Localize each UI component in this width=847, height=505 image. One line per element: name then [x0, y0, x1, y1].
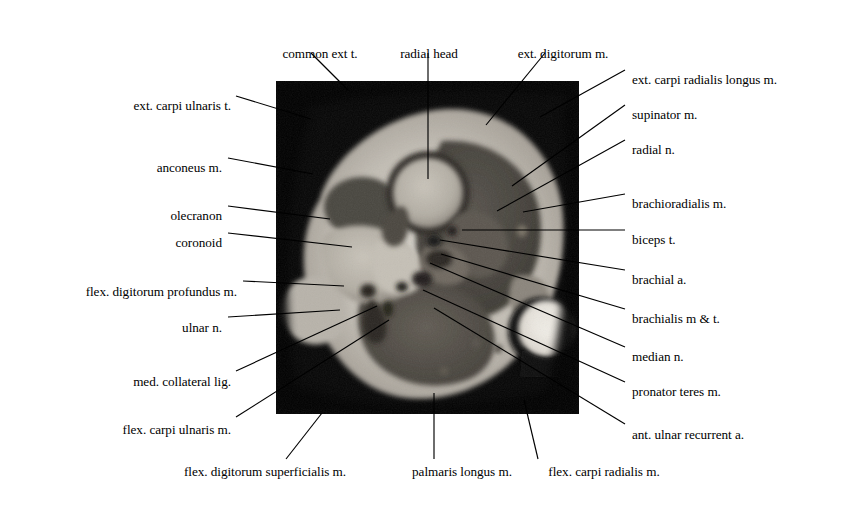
label-brachialis-m-t: brachialis m & t.: [632, 312, 720, 325]
label-med-collateral-lig: med. collateral lig.: [133, 375, 231, 388]
label-ext-digitorum-m: ext. digitorum m.: [518, 47, 609, 60]
mri-scan-image: [276, 81, 579, 414]
label-median-n: median n.: [632, 350, 684, 363]
label-ulnar-n: ulnar n.: [182, 321, 222, 334]
label-brachial-a: brachial a.: [632, 273, 686, 286]
label-flex-carpi-radialis-m: flex. carpi radialis m.: [548, 465, 659, 478]
label-brachioradialis-m: brachioradialis m.: [632, 197, 726, 210]
label-biceps-t: biceps t.: [632, 233, 676, 246]
label-pronator-teres-m: pronator teres m.: [632, 385, 721, 398]
label-common-ext-t: common ext t.: [282, 47, 357, 60]
leader-line-flex-digitorum-superficialis-m: [286, 413, 322, 459]
label-palmaris-longus-m: palmaris longus m.: [412, 465, 512, 478]
label-flex-carpi-ulnaris-m: flex. carpi ulnaris m.: [123, 423, 231, 436]
label-radial-n: radial n.: [632, 143, 675, 156]
mri-scan-graphic: [276, 81, 579, 414]
label-radial-head: radial head: [400, 47, 458, 60]
label-olecranon: olecranon: [170, 209, 222, 222]
label-anconeus-m: anconeus m.: [157, 161, 222, 174]
label-flex-digitorum-profundus-m: flex. digitorum profundus m.: [86, 285, 237, 298]
anatomy-figure: common ext t.radial headext. digitorum m…: [0, 0, 847, 505]
label-flex-digitorum-superficialis-m: flex. digitorum superficialis m.: [184, 465, 346, 478]
label-coronoid: coronoid: [176, 236, 222, 249]
label-supinator-m: supinator m.: [632, 108, 697, 121]
label-ant-ulnar-recurrent-a: ant. ulnar recurrent a.: [632, 428, 744, 441]
label-ext-carpi-ulnaris-t: ext. carpi ulnaris t.: [134, 99, 231, 112]
label-ext-carpi-radialis-longus-m: ext. carpi radialis longus m.: [632, 73, 777, 86]
